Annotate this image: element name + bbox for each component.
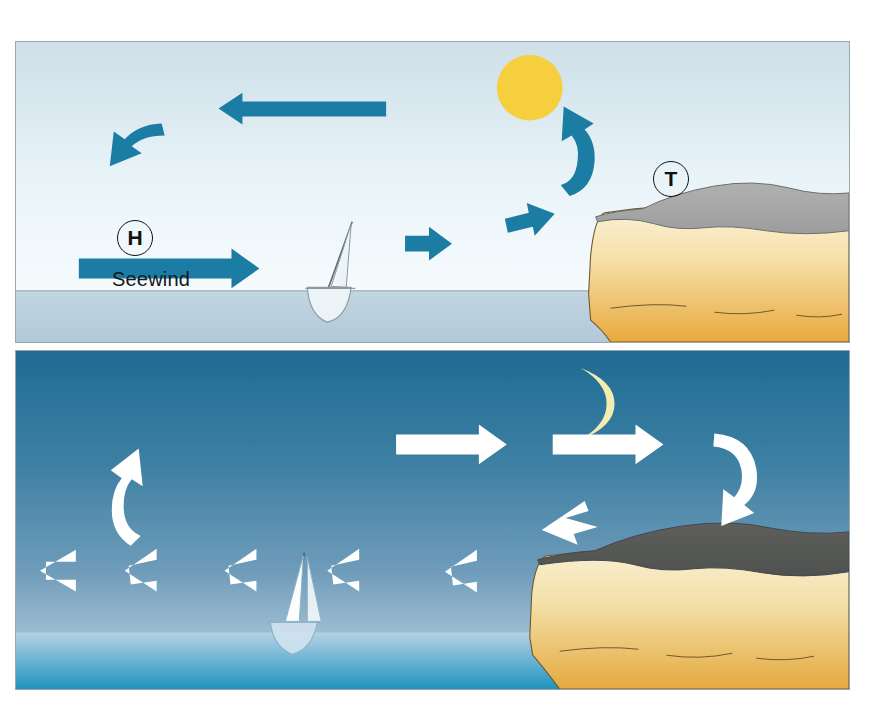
panel-daytime-sea-breeze: H T Seewind — [15, 41, 850, 343]
seewind-label: Seewind — [112, 268, 190, 291]
nighttime-scene — [16, 351, 849, 689]
pressure-marker-low-day: T — [653, 161, 689, 197]
pressure-marker-high-day: H — [117, 220, 153, 256]
figure-canvas: H T Seewind — [0, 0, 895, 718]
sun-icon — [497, 55, 563, 121]
panel-nighttime-land-breeze: T H Landwind — [15, 350, 850, 690]
daytime-scene — [16, 42, 849, 342]
